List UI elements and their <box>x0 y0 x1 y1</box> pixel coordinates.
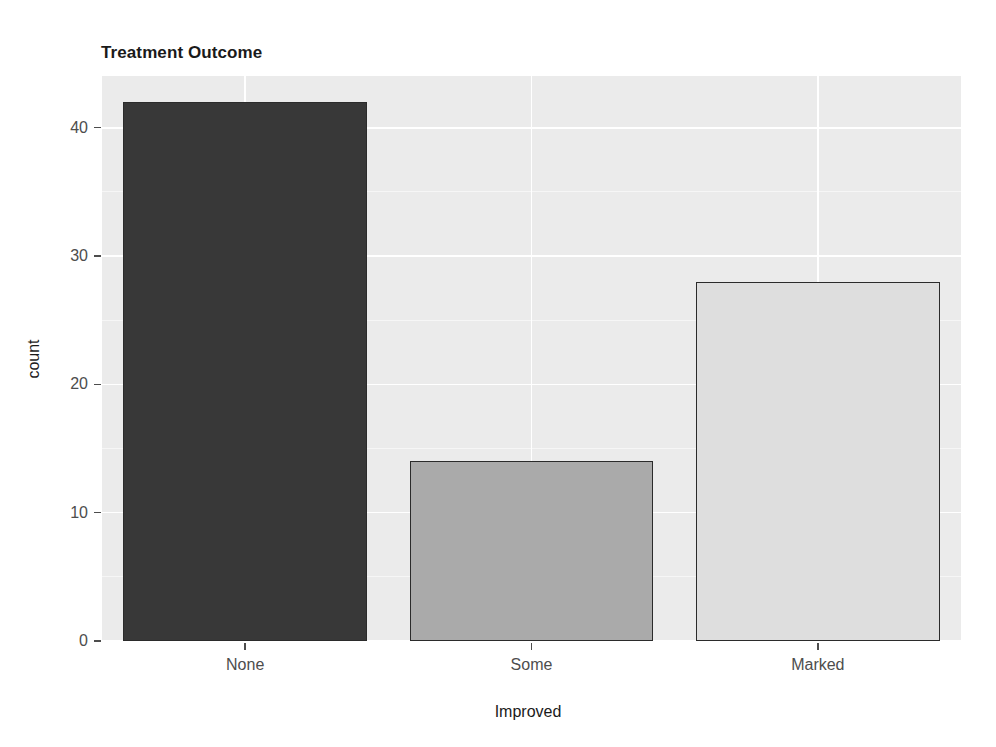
x-tick-label-some: Some <box>511 656 553 674</box>
y-tick-label: 10 <box>70 504 88 522</box>
bar-chart: Treatment Outcome NoneSomeMarked Improve… <box>0 0 996 747</box>
y-tick-label: 30 <box>70 247 88 265</box>
x-tick-label-none: None <box>226 656 264 674</box>
y-tick-mark <box>94 512 101 513</box>
y-axis <box>0 0 86 747</box>
bar-marked[interactable] <box>696 282 939 641</box>
y-tick-label: 40 <box>70 119 88 137</box>
y-tick-mark <box>94 384 101 385</box>
chart-title: Treatment Outcome <box>101 43 262 63</box>
y-tick-mark <box>94 640 101 641</box>
x-tick-mark <box>244 643 245 650</box>
bar-some[interactable] <box>410 461 653 641</box>
x-tick-label-marked: Marked <box>791 656 844 674</box>
x-tick-mark <box>531 643 532 650</box>
plot-panel <box>102 76 961 642</box>
x-tick-mark <box>817 643 818 650</box>
y-tick-label: 20 <box>70 375 88 393</box>
y-tick-label: 0 <box>79 632 88 650</box>
bar-none[interactable] <box>123 102 366 641</box>
y-axis-title: count <box>25 339 43 378</box>
x-axis-title-label: Improved <box>495 703 562 720</box>
y-tick-mark <box>94 255 101 256</box>
x-axis-title: Improved <box>0 703 996 721</box>
y-tick-mark <box>94 127 101 128</box>
